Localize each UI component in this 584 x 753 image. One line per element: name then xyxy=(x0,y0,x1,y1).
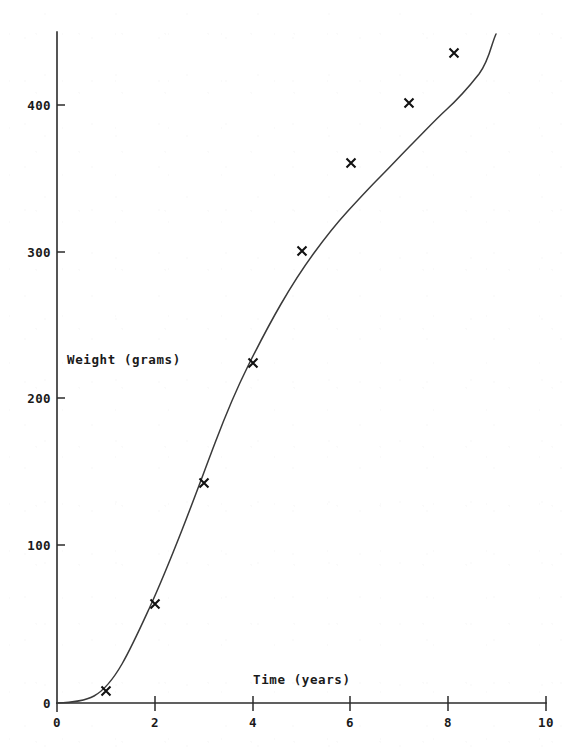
y-tick-group xyxy=(57,105,65,545)
data-point-marker xyxy=(200,479,209,488)
x-tick-labels: 0 2 4 6 8 10 xyxy=(53,715,554,730)
x-tick-label-6: 6 xyxy=(346,715,354,730)
y-tick-labels: 400 300 200 100 0 xyxy=(27,98,51,711)
x-tick-label-8: 8 xyxy=(444,715,452,730)
y-tick-label-0: 0 xyxy=(43,696,51,711)
axis-group xyxy=(57,32,546,703)
growth-curve-path xyxy=(57,34,496,703)
y-tick-label-400: 400 xyxy=(27,98,51,113)
x-tick-label-2: 2 xyxy=(151,715,159,730)
x-tick-group xyxy=(57,696,546,712)
y-axis-title: Weight (grams) xyxy=(67,352,181,367)
fitted-curve-group xyxy=(57,34,496,703)
data-point-markers xyxy=(102,49,459,696)
growth-curve-figure: 400 300 200 100 0 0 2 4 6 8 10 xyxy=(0,0,584,753)
data-point-marker xyxy=(347,159,356,168)
data-point-marker xyxy=(102,687,111,696)
data-point-marker xyxy=(405,99,414,108)
y-tick-label-200: 200 xyxy=(27,391,51,406)
chart-canvas: 400 300 200 100 0 0 2 4 6 8 10 xyxy=(0,0,584,753)
x-tick-label-4: 4 xyxy=(249,715,257,730)
x-tick-label-10: 10 xyxy=(538,715,554,730)
data-point-marker xyxy=(450,49,459,58)
x-axis-title: Time (years) xyxy=(253,672,351,687)
x-tick-label-0: 0 xyxy=(53,715,61,730)
y-tick-label-300: 300 xyxy=(27,245,51,260)
data-point-marker xyxy=(298,247,307,256)
y-tick-label-100: 100 xyxy=(27,538,51,553)
